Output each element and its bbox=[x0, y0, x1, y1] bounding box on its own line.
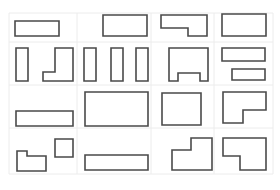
cell-r4-c3 bbox=[172, 138, 212, 170]
cell-r2-c4 bbox=[222, 48, 265, 80]
l-shape-shape bbox=[161, 15, 207, 36]
shape-grid-diagram bbox=[0, 0, 280, 190]
cell-r4-c4 bbox=[223, 138, 266, 170]
rect-shape bbox=[16, 111, 73, 126]
rect-shape bbox=[222, 48, 265, 61]
rect-shape bbox=[15, 21, 59, 36]
rect-shape bbox=[136, 48, 148, 81]
cell-r3-c3 bbox=[162, 93, 201, 125]
l-shape-shape bbox=[223, 138, 266, 170]
rect-shape bbox=[85, 155, 148, 170]
rect-shape bbox=[16, 48, 28, 81]
shapes bbox=[15, 14, 266, 171]
cell-r1-c3 bbox=[161, 15, 207, 36]
cell-r4-c1 bbox=[17, 139, 73, 171]
cell-r1-c2 bbox=[103, 15, 147, 36]
l-shape-shape bbox=[43, 48, 73, 81]
cell-r1-c4 bbox=[222, 14, 266, 36]
cell-r2-c3 bbox=[169, 48, 208, 81]
rect-shape bbox=[103, 15, 147, 36]
rect-shape bbox=[222, 14, 266, 36]
cell-r3-c2 bbox=[85, 92, 148, 126]
cell-r3-c4 bbox=[223, 92, 266, 123]
notched-rect-shape bbox=[169, 48, 208, 81]
square-shape bbox=[55, 139, 73, 157]
rect-shape bbox=[232, 69, 265, 80]
cell-r2-c2 bbox=[84, 48, 148, 81]
rect-shape bbox=[111, 48, 123, 81]
l-shape-shape bbox=[223, 92, 266, 123]
cell-r2-c1 bbox=[16, 48, 73, 81]
rect-shape bbox=[85, 92, 148, 126]
rect-shape bbox=[84, 48, 96, 81]
notched-rect-shape bbox=[17, 151, 46, 171]
cell-r3-c1 bbox=[16, 111, 73, 126]
rect-shape bbox=[162, 93, 201, 125]
cell-r4-c2 bbox=[85, 155, 148, 170]
l-shape-shape bbox=[172, 138, 212, 170]
cell-r1-c1 bbox=[15, 21, 59, 36]
grid-lines bbox=[9, 13, 273, 174]
